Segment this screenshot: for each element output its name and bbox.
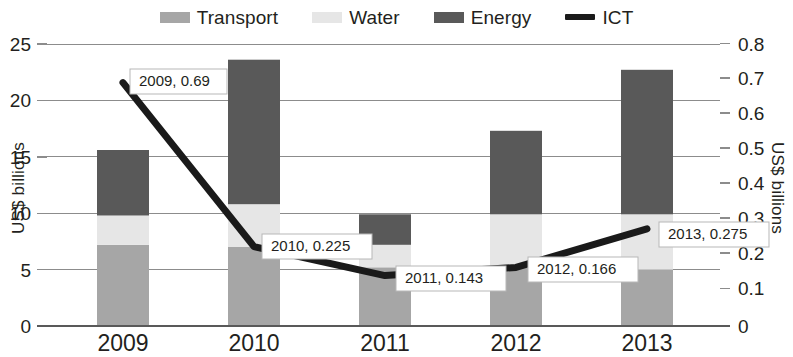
data-label-2013: 2013, 0.275 — [659, 222, 769, 247]
left-axis-ticks: 25 20 15 10 5 0 — [10, 34, 47, 337]
left-tick-label-20: 20 — [10, 90, 31, 111]
data-label-2011-text: 2011, 0.143 — [405, 269, 483, 286]
right-tick-label-0-4: 0.4 — [738, 173, 765, 194]
left-tick-label-10: 10 — [10, 203, 31, 224]
chart-container: Transport Water Energy ICT US$ billions … — [0, 0, 793, 357]
category-label-2009: 2009 — [97, 330, 148, 356]
left-tick-label-0: 0 — [20, 316, 31, 337]
bar-group-2012[interactable] — [490, 131, 542, 326]
data-label-2011: 2011, 0.143 — [396, 266, 506, 291]
category-label-2012: 2012 — [490, 330, 541, 356]
data-label-2013-text: 2013, 0.275 — [668, 225, 747, 242]
right-tick-label-0-1: 0.1 — [738, 278, 764, 299]
right-tick-label-0-6: 0.6 — [738, 103, 764, 124]
bar-segment-energy-2009[interactable] — [97, 150, 149, 216]
bar-segment-energy-2013[interactable] — [621, 70, 673, 215]
right-tick-label-0-7: 0.7 — [738, 68, 764, 89]
left-tick-label-25: 25 — [10, 34, 31, 55]
data-label-2010: 2010, 0.225 — [262, 234, 372, 259]
data-label-2009-text: 2009, 0.69 — [139, 72, 210, 89]
bar-segment-transport-2009[interactable] — [97, 245, 149, 326]
data-label-2012-text: 2012, 0.166 — [537, 260, 616, 277]
category-label-2011: 2011 — [360, 330, 409, 356]
category-labels: 2009 2010 2011 2012 2013 — [97, 330, 672, 356]
left-tick-label-15: 15 — [10, 147, 31, 168]
left-tick-label-5: 5 — [20, 260, 31, 281]
bar-segment-energy-2012[interactable] — [490, 131, 542, 215]
bar-group-2009[interactable] — [97, 150, 149, 326]
bar-segment-water-2009[interactable] — [97, 216, 149, 245]
plot-area: 25 20 15 10 5 0 0.8 0.7 0.6 0.5 0.4 0.3 … — [0, 0, 793, 357]
bar-segment-energy-2010[interactable] — [228, 60, 280, 205]
bar-group-2010[interactable] — [228, 60, 280, 326]
bar-group-2013[interactable] — [621, 70, 673, 326]
category-label-2013: 2013 — [621, 330, 672, 356]
data-label-2012: 2012, 0.166 — [528, 257, 638, 282]
right-tick-label-0-5: 0.5 — [738, 138, 764, 159]
right-axis-ticks: 0.8 0.7 0.6 0.5 0.4 0.3 0.2 0.1 0 — [720, 34, 765, 337]
right-tick-label-0: 0 — [738, 316, 749, 337]
right-tick-label-0-8: 0.8 — [738, 34, 764, 55]
data-label-2010-text: 2010, 0.225 — [271, 237, 350, 254]
category-label-2010: 2010 — [228, 330, 279, 356]
data-label-2009: 2009, 0.69 — [130, 69, 227, 94]
